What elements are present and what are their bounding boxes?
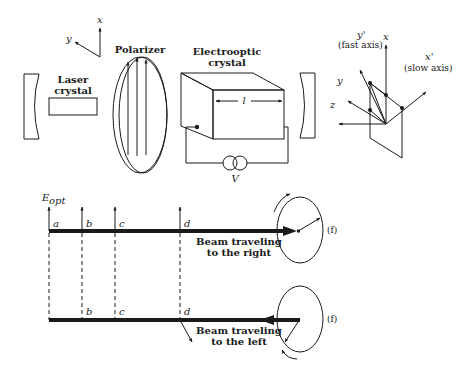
point-c: c [119, 218, 125, 229]
beam-left-end-label: (f) [327, 314, 337, 324]
beam-right: a b c d Beam traveling to the right (f) [49, 194, 337, 263]
coordinate-axes-top: x y [65, 14, 103, 57]
laser-crystal-label-1: Laser [58, 74, 90, 85]
polarizer-label: Polarizer [115, 44, 166, 55]
crystal-x-label: x [383, 31, 389, 42]
y-prime-label: y' [356, 29, 365, 40]
right-mirror [300, 73, 315, 138]
axis-y-label: y [65, 33, 72, 44]
beam-left-label-1: Beam traveling [196, 325, 282, 336]
projection-lines [49, 233, 180, 320]
beam-right-label-2: to the right [207, 247, 272, 258]
crystal-axes-diagram: y' (fast axis) x x' (slow axis) y z [329, 29, 452, 158]
beam-right-end-label: (f) [327, 225, 337, 235]
voltage-source-circuit: V [186, 127, 288, 184]
left-mirror [24, 74, 39, 139]
point-d: d [184, 218, 190, 229]
crystal-z-label: z [329, 99, 336, 110]
slow-axis-label: (slow axis) [404, 63, 452, 73]
fast-axis-label: (fast axis) [338, 40, 383, 50]
e-opt-subscript: opt [49, 195, 66, 206]
point-d-lower: d [184, 306, 190, 317]
polarizer: Polarizer [113, 44, 167, 173]
beam-right-label-1: Beam traveling [196, 236, 282, 247]
x-prime-label: x' [425, 51, 433, 62]
electrooptic-crystal: Electrooptic crystal l [181, 46, 284, 139]
crystal-y-label: y [336, 75, 343, 86]
point-a: a [53, 218, 59, 229]
laser-crystal: Laser crystal [49, 74, 97, 115]
eo-crystal-label-2: crystal [208, 57, 246, 68]
voltage-label: V [231, 173, 240, 184]
point-c-lower: c [119, 306, 125, 317]
diagram-canvas: x y Laser crystal Polarizer Electrooptic… [0, 0, 470, 376]
laser-crystal-label-2: crystal [54, 85, 92, 96]
eo-crystal-label-1: Electrooptic [193, 46, 262, 57]
field-label: E opt [41, 192, 66, 206]
beam-left: b c d Beam traveling to the left (f) [49, 286, 337, 359]
point-b-lower: b [86, 306, 92, 317]
point-b: b [86, 218, 92, 229]
length-label: l [242, 95, 245, 106]
beam-left-label-2: to the left [211, 336, 267, 347]
axis-x-label: x [97, 14, 103, 25]
